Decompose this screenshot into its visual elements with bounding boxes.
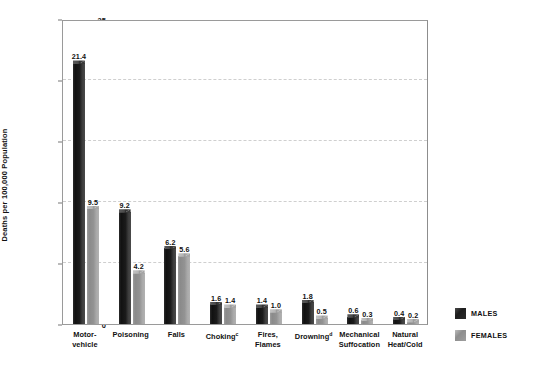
bar-group: 21.49.5 bbox=[63, 19, 109, 324]
bar-males bbox=[347, 317, 359, 324]
bar-females bbox=[361, 320, 373, 324]
bar-value-label: 5.6 bbox=[179, 245, 189, 254]
bar-group: 6.25.6 bbox=[155, 19, 201, 324]
bar-wrapper: 1.4 bbox=[224, 296, 236, 324]
bar-group: 1.80.5 bbox=[292, 19, 338, 324]
bar-face bbox=[210, 304, 222, 324]
bar-females bbox=[270, 312, 282, 324]
bar-face bbox=[256, 307, 268, 324]
legend-swatch-males-icon bbox=[455, 308, 466, 319]
bar-group: 1.61.4 bbox=[200, 19, 246, 324]
bar-males bbox=[393, 319, 405, 324]
bar-females bbox=[316, 318, 328, 324]
bar-value-label: 21.4 bbox=[72, 52, 86, 61]
bar-wrapper: 5.6 bbox=[178, 245, 190, 324]
bar-value-label: 1.4 bbox=[225, 296, 235, 305]
bar-group: 1.41.0 bbox=[246, 19, 292, 324]
legend-label-males: MALES bbox=[471, 309, 498, 318]
bar-face bbox=[119, 212, 131, 324]
bar-females bbox=[224, 307, 236, 324]
y-axis-title: Deaths per 100,000 Population bbox=[0, 0, 9, 95]
bar-females bbox=[133, 273, 145, 324]
bar-wrapper: 9.5 bbox=[87, 198, 99, 324]
bar-wrapper: 1.6 bbox=[210, 294, 222, 324]
bar-males bbox=[119, 212, 131, 324]
bar-wrapper: 21.4 bbox=[73, 52, 85, 324]
bar-value-label: 1.4 bbox=[257, 296, 267, 305]
bar-wrapper: 0.2 bbox=[407, 311, 419, 324]
bar-females bbox=[178, 256, 190, 324]
bar-wrapper: 1.4 bbox=[256, 296, 268, 324]
bar-males bbox=[256, 307, 268, 324]
legend-item-males: MALES bbox=[455, 308, 507, 319]
bar-value-label: 0.6 bbox=[348, 306, 358, 315]
legend-swatch-females-icon bbox=[455, 330, 466, 341]
bar-wrapper: 0.4 bbox=[393, 309, 405, 324]
bar-value-label: 0.3 bbox=[362, 310, 372, 319]
legend: MALES FEMALES bbox=[455, 308, 507, 352]
bar-females bbox=[407, 322, 419, 324]
bar-group: 9.24.2 bbox=[109, 19, 155, 324]
bar-value-label: 9.2 bbox=[119, 201, 129, 210]
bar-face bbox=[302, 302, 314, 324]
bar-face bbox=[347, 317, 359, 324]
bar-value-label: 0.5 bbox=[316, 307, 326, 316]
bar-face bbox=[87, 208, 99, 324]
bar-value-label: 0.4 bbox=[394, 309, 404, 318]
bar-males bbox=[164, 248, 176, 324]
legend-label-females: FEMALES bbox=[471, 331, 507, 340]
bar-face bbox=[270, 312, 282, 324]
bar-females bbox=[87, 208, 99, 324]
bar-wrapper: 0.3 bbox=[361, 310, 373, 324]
bar-males bbox=[302, 302, 314, 324]
bar-value-label: 0.2 bbox=[408, 311, 418, 320]
bar-wrapper: 4.2 bbox=[133, 262, 145, 324]
bar-face bbox=[164, 248, 176, 324]
bar-value-label: 1.0 bbox=[271, 301, 281, 310]
bar-wrapper: 0.5 bbox=[316, 307, 328, 324]
bar-males bbox=[210, 304, 222, 324]
bar-value-label: 1.8 bbox=[302, 292, 312, 301]
bar-face bbox=[178, 256, 190, 324]
bar-wrapper: 0.6 bbox=[347, 306, 359, 324]
bar-group: 0.60.3 bbox=[338, 19, 384, 324]
bar-value-label: 6.2 bbox=[165, 238, 175, 247]
bar-face bbox=[73, 63, 85, 324]
bar-value-label: 4.2 bbox=[133, 262, 143, 271]
bar-face bbox=[133, 273, 145, 324]
bar-value-label: 1.6 bbox=[211, 294, 221, 303]
bar-value-label: 9.5 bbox=[88, 198, 98, 207]
bar-wrapper: 1.0 bbox=[270, 301, 282, 324]
bar-males bbox=[73, 63, 85, 324]
bar-wrapper: 6.2 bbox=[164, 238, 176, 324]
bar-chart: Deaths per 100,000 Population 0510152025… bbox=[0, 0, 538, 387]
y-axis-title-text: Deaths per 100,000 Population bbox=[0, 95, 9, 275]
x-axis-label: NaturalHeat/Cold bbox=[374, 330, 436, 349]
bar-group: 0.40.2 bbox=[383, 19, 429, 324]
bar-face bbox=[224, 307, 236, 324]
legend-item-females: FEMALES bbox=[455, 330, 507, 341]
bar-wrapper: 9.2 bbox=[119, 201, 131, 324]
bar-wrapper: 1.8 bbox=[302, 292, 314, 324]
plot-area: 21.49.59.24.26.25.61.61.41.41.01.80.50.6… bbox=[62, 20, 428, 325]
